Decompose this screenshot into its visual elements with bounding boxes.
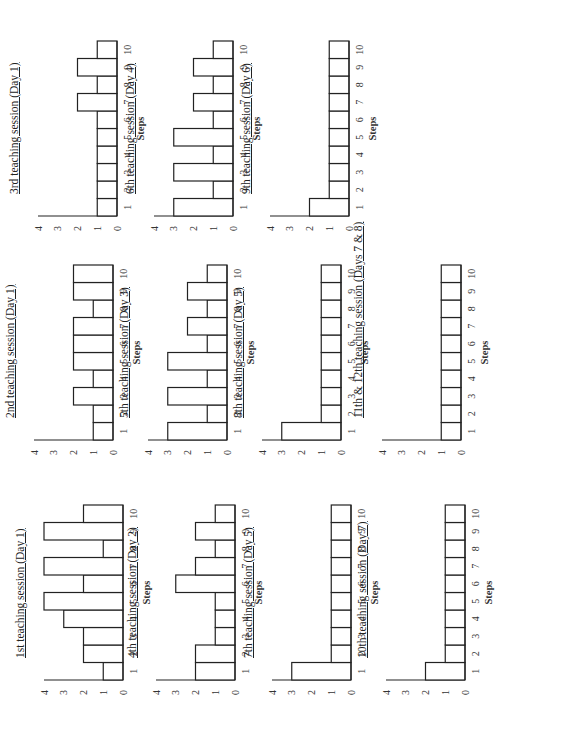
bar <box>78 94 118 112</box>
bar <box>331 628 351 646</box>
bar <box>331 575 351 593</box>
y-tick-label: 3 <box>276 450 287 455</box>
y-tick-label: 3 <box>52 226 63 231</box>
y-tick-label: 2 <box>188 226 199 231</box>
x-tick-label: 7 <box>466 324 477 329</box>
bar <box>331 540 351 558</box>
bar <box>321 335 341 353</box>
bar <box>321 405 341 423</box>
y-tick-label: 0 <box>230 690 241 695</box>
bar <box>321 370 341 388</box>
chart-panel: 11th & 12th teaching session (Days 7 & 8… <box>358 270 468 470</box>
bar <box>74 335 114 353</box>
bar-plot: 0123412345678910Steps <box>362 485 497 710</box>
y-tick-label: 0 <box>112 226 123 231</box>
y-tick-label: 0 <box>460 690 471 695</box>
bar <box>441 423 461 441</box>
bar <box>194 94 234 112</box>
bar <box>194 59 234 77</box>
bar <box>168 388 227 406</box>
bar <box>445 505 465 523</box>
x-tick-label: 2 <box>354 187 365 192</box>
y-tick-label: 2 <box>420 690 431 695</box>
y-tick-label: 0 <box>456 450 467 455</box>
bar-plot: 0123412345678910Steps <box>358 245 493 470</box>
bar <box>441 388 461 406</box>
y-tick-label: 3 <box>162 450 173 455</box>
bar <box>441 335 461 353</box>
bar <box>97 129 117 147</box>
bar <box>445 558 465 576</box>
y-tick-label: 3 <box>58 690 69 695</box>
bar <box>321 265 341 283</box>
y-tick-label: 2 <box>78 690 89 695</box>
y-tick-label: 0 <box>118 690 129 695</box>
y-tick-label: 0 <box>222 450 233 455</box>
x-tick-label: 1 <box>346 429 357 434</box>
bar <box>329 111 349 129</box>
y-tick-label: 3 <box>284 226 295 231</box>
bar <box>441 353 461 371</box>
bar <box>97 199 117 217</box>
bar <box>445 593 465 611</box>
bar <box>445 575 465 593</box>
bar <box>74 283 114 301</box>
chart-panel: 8th teaching session (Day 5)012341234567… <box>238 270 348 470</box>
bar <box>207 265 227 283</box>
bar <box>331 645 351 663</box>
x-tick-label: 6 <box>470 581 481 586</box>
bar <box>97 111 117 129</box>
bar <box>292 663 351 681</box>
x-tick-label: 7 <box>470 564 481 569</box>
bar <box>310 199 350 217</box>
bar <box>97 146 117 164</box>
y-tick-label: 4 <box>377 450 388 455</box>
bar <box>445 645 465 663</box>
bar <box>84 628 124 646</box>
bar <box>331 558 351 576</box>
y-tick-label: 2 <box>68 450 79 455</box>
y-tick-label: 4 <box>33 226 44 231</box>
bar <box>445 523 465 541</box>
y-tick-label: 0 <box>346 690 357 695</box>
y-tick-label: 1 <box>92 226 103 231</box>
bar <box>74 353 114 371</box>
rotated-page: 1st teaching session (Day 1)012341234567… <box>0 0 567 748</box>
bar <box>93 300 113 318</box>
x-tick-label: 10 <box>466 269 477 279</box>
bar <box>329 164 349 182</box>
x-tick-label: 8 <box>354 82 365 87</box>
bar <box>207 300 227 318</box>
y-tick-label: 4 <box>265 226 276 231</box>
y-tick-label: 4 <box>39 690 50 695</box>
bar <box>441 405 461 423</box>
chart-panel: 6th teaching session (Day 4)012341234567… <box>130 46 240 246</box>
bar <box>445 540 465 558</box>
y-tick-label: 3 <box>170 690 181 695</box>
y-tick-label: 3 <box>286 690 297 695</box>
bar <box>97 181 117 199</box>
y-tick-label: 2 <box>416 450 427 455</box>
bar <box>93 423 113 441</box>
chart-panel: 9th teaching session (Day 6)012341234567… <box>246 46 356 246</box>
bar <box>329 76 349 94</box>
y-tick-label: 1 <box>324 226 335 231</box>
x-tick-label: 9 <box>354 65 365 70</box>
bar <box>176 575 235 593</box>
bar <box>174 129 233 147</box>
bar <box>207 335 227 353</box>
bar <box>168 423 227 441</box>
bar <box>445 628 465 646</box>
bar <box>441 370 461 388</box>
bar <box>74 318 114 336</box>
x-tick-label: 2 <box>466 411 477 416</box>
bar <box>97 164 117 182</box>
bar <box>441 283 461 301</box>
bar <box>329 41 349 59</box>
x-tick-label: 6 <box>466 341 477 346</box>
bar <box>329 129 349 147</box>
bar <box>329 59 349 77</box>
bar <box>168 353 227 371</box>
y-tick-label: 4 <box>151 690 162 695</box>
bar <box>321 283 341 301</box>
